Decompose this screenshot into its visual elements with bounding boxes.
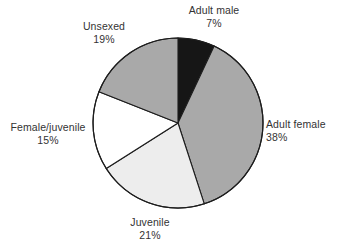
pie-chart-figure: Adult male 7% Adult female 38% Juvenile … xyxy=(0,0,342,252)
slice-label-female-juvenile: Female/juvenile 15% xyxy=(2,121,94,147)
slice-label-adult-female-name: Adult female xyxy=(266,118,342,131)
slice-label-adult-female-value: 38% xyxy=(266,131,342,144)
slice-label-female-juvenile-value: 15% xyxy=(2,134,94,147)
slice-label-adult-male-name: Adult male xyxy=(166,4,262,17)
slice-label-unsexed-name: Unsexed xyxy=(62,20,146,33)
slice-label-juvenile-value: 21% xyxy=(108,229,192,242)
slice-label-juvenile-name: Juvenile xyxy=(108,216,192,229)
slice-label-adult-female: Adult female 38% xyxy=(266,118,342,144)
slice-label-unsexed-value: 19% xyxy=(62,33,146,46)
slice-label-adult-male: Adult male 7% xyxy=(166,4,262,30)
slice-label-female-juvenile-name: Female/juvenile xyxy=(2,121,94,134)
slice-label-adult-male-value: 7% xyxy=(166,17,262,30)
slice-label-juvenile: Juvenile 21% xyxy=(108,216,192,242)
slice-label-unsexed: Unsexed 19% xyxy=(62,20,146,46)
